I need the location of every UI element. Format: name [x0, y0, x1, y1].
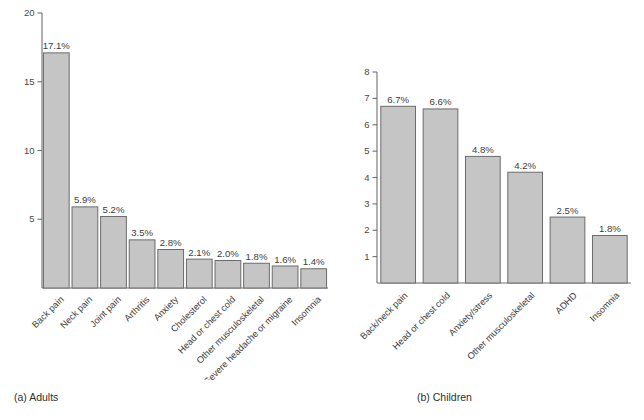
figure-container: 510152017.1%Back pain5.9%Neck pain5.2%Jo… [0, 0, 644, 420]
bar-rect [158, 250, 184, 289]
adults-bar-chart: 510152017.1%Back pain5.9%Neck pain5.2%Jo… [0, 0, 335, 380]
panel-children: 123456786.7%Back/neck pain6.6%Head or ch… [335, 0, 644, 420]
y-tick-label: 4 [364, 172, 369, 183]
y-tick-label: 1 [364, 251, 369, 262]
y-tick-label: 7 [364, 92, 369, 103]
bar-rect [381, 106, 416, 283]
bar-rect [72, 207, 98, 288]
bar-value-label: 6.7% [387, 94, 409, 105]
bar-rect [272, 266, 298, 288]
bar-rect [215, 261, 241, 289]
category-label: Joint pain [88, 294, 123, 329]
bar-value-label: 4.8% [472, 144, 494, 155]
children-bar-chart: 123456786.7%Back/neck pain6.6%Head or ch… [335, 0, 644, 380]
bar-rect [186, 259, 212, 288]
category-label: Arthritis [122, 294, 151, 323]
y-tick-label: 20 [24, 7, 35, 18]
bar-value-label: 5.9% [74, 194, 96, 205]
bar-rect [43, 53, 69, 288]
category-label: Insomnia [588, 290, 622, 324]
panel-adults: 510152017.1%Back pain5.9%Neck pain5.2%Jo… [0, 0, 335, 420]
caption-children: (b) Children [417, 391, 472, 403]
bar-value-label: 3.5% [131, 227, 153, 238]
bar-value-label: 1.8% [246, 251, 268, 262]
bar-value-label: 2.1% [188, 247, 210, 258]
y-tick-label: 15 [24, 76, 35, 87]
bar-rect [129, 240, 155, 288]
y-tick-label: 6 [364, 119, 369, 130]
category-label: Anxiety [152, 294, 181, 323]
bar-value-label: 5.2% [103, 204, 125, 215]
bar-rect [465, 156, 500, 283]
bar-value-label: 6.6% [430, 96, 452, 107]
caption-adults: (a) Adults [14, 391, 58, 403]
y-tick-label: 5 [29, 213, 34, 224]
bar-value-label: 1.6% [274, 254, 296, 265]
bar-rect [508, 172, 543, 283]
bar-value-label: 2.5% [557, 205, 579, 216]
bar-rect [592, 236, 627, 283]
y-tick-label: 5 [364, 145, 369, 156]
bar-rect [244, 263, 270, 288]
category-label: Insomnia [290, 294, 324, 328]
bar-rect [301, 269, 327, 288]
bar-value-label: 4.2% [514, 160, 536, 171]
y-tick-label: 2 [364, 224, 369, 235]
category-label: ADHD [553, 290, 579, 316]
bar-rect [423, 109, 458, 283]
bar-rect [550, 217, 585, 283]
category-label: Anxiety/stress [447, 290, 495, 338]
bar-value-label: 1.4% [303, 256, 325, 267]
y-tick-label: 10 [24, 145, 35, 156]
bar-value-label: 1.8% [599, 223, 621, 234]
bar-value-label: 2.8% [160, 237, 182, 248]
bar-rect [101, 217, 127, 289]
bar-value-label: 17.1% [43, 40, 71, 51]
y-tick-label: 8 [364, 66, 369, 77]
bar-value-label: 2.0% [217, 248, 239, 259]
y-tick-label: 3 [364, 198, 369, 209]
